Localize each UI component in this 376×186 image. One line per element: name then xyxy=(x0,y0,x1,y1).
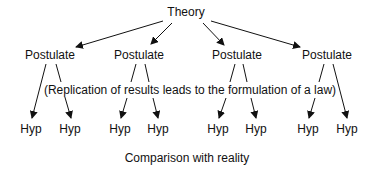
hypothesis-node-7: Hyp xyxy=(297,122,318,136)
arrow-theory-postulate-4 xyxy=(211,21,300,47)
arrow-theory-postulate-2 xyxy=(151,23,172,44)
arrow-theory-postulate-3 xyxy=(203,23,224,45)
theory-node: Theory xyxy=(167,5,204,19)
hypothesis-node-6: Hyp xyxy=(245,122,266,136)
hypothesis-node-4: Hyp xyxy=(147,122,168,136)
postulate-node-3: Postulate xyxy=(212,48,262,62)
hypothesis-node-8: Hyp xyxy=(336,122,357,136)
hypothesis-node-2: Hyp xyxy=(59,122,80,136)
postulate-node-2: Postulate xyxy=(114,48,164,62)
arrow-theory-postulate-1 xyxy=(76,21,163,47)
hypothesis-node-3: Hyp xyxy=(109,122,130,136)
postulate-node-4: Postulate xyxy=(302,48,352,62)
postulate-node-1: Postulate xyxy=(25,48,75,62)
replication-note: (Replication of results leads to the for… xyxy=(43,83,337,97)
hypothesis-node-5: Hyp xyxy=(207,122,228,136)
hypothesis-node-1: Hyp xyxy=(20,122,41,136)
comparison-caption: Comparison with reality xyxy=(125,151,250,165)
